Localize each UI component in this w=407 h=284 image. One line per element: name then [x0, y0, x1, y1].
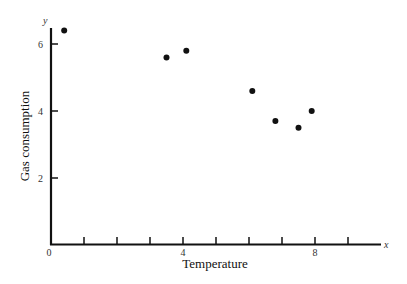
- data-points: [61, 28, 315, 131]
- x-tick-label: 8: [313, 247, 318, 258]
- y-tick-labels: 246: [38, 39, 43, 184]
- axes: [50, 28, 381, 245]
- x-axis-letter: x: [383, 239, 389, 250]
- scatter-chart: 048 246 x y Temperature Gas consumption: [0, 0, 407, 284]
- data-point: [296, 125, 302, 131]
- x-axis-title: Temperature: [182, 256, 248, 271]
- y-tick-label: 4: [38, 106, 43, 117]
- y-tick-label: 6: [38, 39, 43, 50]
- data-point: [309, 108, 315, 114]
- data-point: [61, 28, 67, 34]
- y-axis-letter: y: [42, 15, 48, 26]
- x-ticks: [84, 237, 348, 244]
- data-point: [183, 48, 189, 54]
- y-axis-title: Gas consumption: [17, 90, 32, 181]
- data-point: [164, 54, 170, 60]
- y-tick-label: 2: [38, 173, 43, 184]
- data-point: [272, 118, 278, 124]
- data-point: [249, 88, 255, 94]
- x-tick-label: 0: [47, 247, 52, 258]
